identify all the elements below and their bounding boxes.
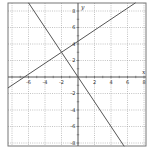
x-tick-label: 4 xyxy=(109,79,112,85)
y-tick-label: 4 xyxy=(72,41,75,47)
x-axis-label: x xyxy=(142,68,146,75)
y-tick-label: 2 xyxy=(72,57,75,63)
x-tick-label: -2 xyxy=(59,79,64,85)
y-tick-label: -4 xyxy=(71,107,76,113)
y-axis-label: y xyxy=(80,3,85,11)
y-tick-label: 8 xyxy=(72,8,75,14)
x-tick-label: 8 xyxy=(142,79,145,85)
y-tick-label: -8 xyxy=(71,140,76,146)
y-tick-label: 6 xyxy=(72,24,75,30)
y-tick-label: -6 xyxy=(71,123,76,129)
y-tick-label: -2 xyxy=(71,90,76,96)
x-tick-label: 6 xyxy=(126,79,129,85)
decreasing-line xyxy=(29,3,125,147)
x-tick-label: -4 xyxy=(43,79,48,85)
x-tick-label: 2 xyxy=(93,79,96,85)
coordinate-plane-chart: -6-4-224688642-2-4-6-8 x y xyxy=(0,0,152,151)
x-tick-label: -6 xyxy=(26,79,31,85)
